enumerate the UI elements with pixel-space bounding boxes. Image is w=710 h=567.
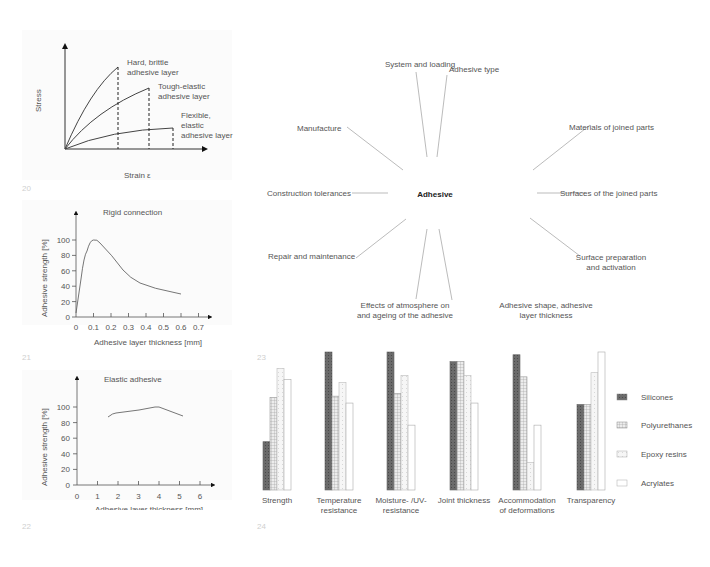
legend-label-silicones: Silicones xyxy=(641,393,673,402)
x-axis-label: Adhesive layer thickness [mm] xyxy=(95,505,203,510)
y-axis-label: Adhesive strength [%] xyxy=(40,239,49,317)
svg-text:4: 4 xyxy=(157,492,162,501)
x-tick-label: 0.4 xyxy=(140,323,152,332)
x-tick-label: 0.1 xyxy=(88,323,100,332)
svg-text:5: 5 xyxy=(177,492,182,501)
svg-text:0: 0 xyxy=(66,313,71,322)
factor-shape-line1: Adhesive shape, adhesive xyxy=(499,301,593,310)
stress-strain-chart: Hard, brittle adhesive layer Tough-elast… xyxy=(0,0,240,195)
svg-text:adhesive layer: adhesive layer xyxy=(127,68,179,77)
category-label: Joint thickness xyxy=(438,496,490,505)
svg-text:Hard, brittle: Hard, brittle xyxy=(127,58,169,67)
svg-text:0: 0 xyxy=(75,492,80,501)
y-tick-label: 100 xyxy=(57,403,71,412)
x-tick-label: 1 xyxy=(95,492,100,501)
svg-text:20: 20 xyxy=(61,465,70,474)
svg-text:40: 40 xyxy=(61,282,70,291)
svg-text:Polyurethanes: Polyurethanes xyxy=(641,421,692,430)
category-label: resistance xyxy=(383,506,420,515)
figure-number-21: 21 xyxy=(22,353,31,362)
svg-text:0.6: 0.6 xyxy=(175,323,187,332)
legend-label-polyurethanes: Polyurethanes xyxy=(641,421,692,430)
svg-text:adhesive layer: adhesive layer xyxy=(158,92,210,101)
y-axis-label: Stress xyxy=(34,89,43,112)
rigid-connection-chart: 0 20 40 60 80 100 0 0.1 0.2 0.3 0.4 0.5 … xyxy=(0,195,240,335)
bar-silicones xyxy=(513,355,520,490)
bar-epoxy-resins xyxy=(464,375,471,490)
svg-text:0.3: 0.3 xyxy=(123,323,135,332)
category-label: Transparency xyxy=(567,496,616,505)
factor-tolerances: Construction tolerances xyxy=(267,189,351,198)
x-tick-label: 0.2 xyxy=(105,323,117,332)
figure-number-24: 24 xyxy=(257,522,266,531)
rigid-curve xyxy=(76,240,181,313)
svg-text:Adhesive layer thickness [mm]: Adhesive layer thickness [mm] xyxy=(94,338,202,347)
bar-acrylates xyxy=(598,352,605,490)
label-hard-line1: Hard, brittle xyxy=(127,58,169,67)
svg-text:Adhesive type: Adhesive type xyxy=(449,65,500,74)
svg-text:layer thickness: layer thickness xyxy=(520,311,573,320)
category-label: resistance xyxy=(321,506,358,515)
x-tick-label: 6 xyxy=(198,492,203,501)
svg-text:Effects of atmosphere on: Effects of atmosphere on xyxy=(361,301,450,310)
svg-text:20: 20 xyxy=(61,298,70,307)
svg-text:adhesive layer: adhesive layer xyxy=(181,131,233,140)
svg-text:Flexible,: Flexible, xyxy=(181,111,211,120)
x-axis-label: Adhesive layer thickness [mm] xyxy=(94,338,202,347)
bar-silicones xyxy=(325,352,332,490)
y-tick-label: 80 xyxy=(61,251,70,260)
bar-polyurethanes xyxy=(457,362,464,490)
bar-polyurethanes xyxy=(584,404,591,490)
x-tick-label: 0.5 xyxy=(158,323,170,332)
svg-text:0.7: 0.7 xyxy=(193,323,205,332)
bar-acrylates xyxy=(471,403,478,490)
connector-lines xyxy=(347,72,590,300)
legend: Silicones Polyurethanes Epoxy resins Acr… xyxy=(617,393,692,488)
svg-text:100: 100 xyxy=(57,403,71,412)
svg-text:elastic: elastic xyxy=(181,121,204,130)
x-axis-label: Strain ε xyxy=(124,171,151,180)
label-tough-line2: adhesive layer xyxy=(158,92,210,101)
category-label: Temperature xyxy=(317,496,362,505)
x-tick-label: 2 xyxy=(116,492,121,501)
category-label: of deformations xyxy=(499,506,554,515)
svg-text:Adhesive strength [%]: Adhesive strength [%] xyxy=(40,239,49,317)
factor-atmosphere-line2: and ageing of the adhesive xyxy=(357,311,454,320)
y-tick-label: 60 xyxy=(61,434,70,443)
svg-text:1: 1 xyxy=(95,492,100,501)
bar-polyurethanes xyxy=(394,393,401,490)
bar-polyurethanes xyxy=(332,396,339,490)
svg-text:Adhesive shape, adhesive: Adhesive shape, adhesive xyxy=(499,301,593,310)
svg-text:80: 80 xyxy=(61,419,70,428)
svg-text:Adhesive: Adhesive xyxy=(417,190,453,199)
svg-text:0: 0 xyxy=(66,481,71,490)
svg-text:Repair and maintenance: Repair and maintenance xyxy=(268,252,356,261)
svg-text:Acrylates: Acrylates xyxy=(641,479,674,488)
svg-text:80: 80 xyxy=(61,251,70,260)
label-hard-line2: adhesive layer xyxy=(127,68,179,77)
factor-surface-prep-line1: Surface preparation xyxy=(576,253,646,262)
y-axis-label: Adhesive strength [%] xyxy=(40,408,49,486)
svg-text:100: 100 xyxy=(57,236,71,245)
svg-text:0: 0 xyxy=(74,323,79,332)
svg-text:40: 40 xyxy=(61,450,70,459)
bar-groups xyxy=(263,352,605,490)
curves xyxy=(65,67,173,149)
bar-epoxy-resins xyxy=(277,369,284,490)
svg-text:2: 2 xyxy=(116,492,121,501)
svg-text:Stress: Stress xyxy=(34,89,43,112)
y-ticks xyxy=(73,407,77,485)
y-tick-label: 40 xyxy=(61,450,70,459)
y-tick-label: 60 xyxy=(61,267,70,276)
figure-number-20: 20 xyxy=(22,184,31,193)
factor-materials: Materials of joined parts xyxy=(569,123,654,132)
label-flex-line1: Flexible, xyxy=(181,111,211,120)
bar-acrylates xyxy=(534,425,541,490)
svg-text:and activation: and activation xyxy=(586,263,635,272)
svg-text:Rigid connection: Rigid connection xyxy=(103,208,162,217)
factor-shape-line2: layer thickness xyxy=(520,311,573,320)
factor-system-loading: System and loading xyxy=(385,60,455,69)
chart-title: Rigid connection xyxy=(103,208,162,217)
bar-silicones xyxy=(263,442,270,490)
svg-text:Silicones: Silicones xyxy=(641,393,673,402)
